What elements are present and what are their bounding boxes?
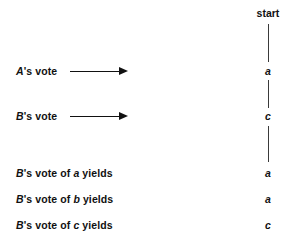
row-b-vote-of-c-part-0: B (16, 219, 24, 231)
row-b-vote-arrow (70, 112, 128, 121)
row-b-vote-of-b-part-0: B (16, 193, 24, 205)
segment-c-to-results (268, 126, 269, 162)
result-c-1: c (248, 220, 288, 231)
row-a-vote-arrow-head-icon (119, 67, 128, 75)
row-b-vote-of-c-part-3: yields (79, 219, 112, 231)
row-b-vote-of-a-part-1: 's vote of (24, 167, 74, 179)
row-b-vote-of-a-part-0: B (16, 167, 24, 179)
row-a-vote-part-0: A (16, 65, 24, 77)
row-b-vote-arrow-head-icon (119, 112, 128, 120)
row-b-vote-arrow-shaft (70, 116, 120, 117)
result-a-1: a (248, 168, 288, 179)
row-b-vote-of-b: B's vote of b yields (16, 194, 113, 205)
row-b-vote-of-a-part-3: yields (79, 167, 112, 179)
row-a-vote-arrow (70, 67, 128, 76)
result-a-2: a (248, 194, 288, 205)
row-b-vote-of-b-part-3: yields (80, 193, 113, 205)
row-b-vote-part-1: 's vote (24, 110, 58, 122)
row-b-vote-of-c-part-1: 's vote of (24, 219, 74, 231)
row-b-vote-of-c: B's vote of c yields (16, 220, 113, 231)
voting-sequence-diagram: start acaac A's voteB's voteB's vote of … (0, 0, 289, 246)
segment-a-to-c (268, 80, 269, 108)
row-a-vote-part-1: 's vote (24, 65, 58, 77)
row-b-vote: B's vote (16, 111, 57, 122)
row-b-vote-of-a: B's vote of a yields (16, 168, 113, 179)
node-a: a (248, 66, 288, 77)
row-b-vote-part-0: B (16, 110, 24, 122)
row-a-vote: A's vote (16, 66, 57, 77)
row-b-vote-of-b-part-1: 's vote of (24, 193, 74, 205)
timeline-start-label: start (248, 8, 288, 19)
row-a-vote-arrow-shaft (70, 71, 120, 72)
segment-start-to-a (268, 24, 269, 62)
node-c: c (248, 111, 288, 122)
